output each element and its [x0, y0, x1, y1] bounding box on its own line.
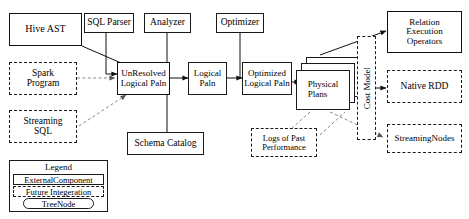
node-hive-ast[interactable]: Hive AST [9, 13, 82, 46]
node-unresolved-logical-plan[interactable]: UnResolved Logical Paln [117, 62, 170, 95]
node-logs-of-past-performance-label: Logs of Past Performance [262, 134, 305, 152]
node-streaming-nodes-label: StreamingNodes [395, 134, 455, 143]
node-analyzer[interactable]: Analyzer [144, 13, 191, 33]
node-schema-catalog-label: Schema Catalog [135, 139, 197, 149]
node-logs-of-past-performance[interactable]: Logs of Past Performance [251, 128, 317, 157]
node-spark-program-label: Spark Program [27, 69, 60, 89]
node-optimized-logical-plan-label: Optimized Logical Paln [244, 69, 290, 88]
legend-item-treenode: TreeNode [23, 198, 94, 209]
node-native-rdd-label: Native RDD [401, 82, 449, 92]
node-unresolved-logical-plan-label: UnResolved Logical Paln [121, 69, 167, 88]
node-sql-parser-label: SQL Parser [87, 18, 131, 28]
node-optimized-logical-plan[interactable]: Optimized Logical Paln [242, 62, 292, 95]
node-streaming-nodes[interactable]: StreamingNodes [387, 124, 462, 153]
legend-title: Legend [13, 162, 104, 173]
node-hive-ast-label: Hive AST [25, 24, 65, 35]
node-relation-execution-operators-label: Relation Execution Operators [406, 18, 443, 46]
legend: Legend ExternalComponent Future Integera… [9, 160, 108, 212]
node-logical-plan-label: Logical Paln [194, 69, 222, 88]
legend-item-future-integration-label: Future Integeration [26, 187, 91, 197]
node-sql-parser[interactable]: SQL Parser [84, 13, 134, 33]
node-schema-catalog[interactable]: Schema Catalog [127, 132, 204, 155]
node-relation-execution-operators[interactable]: Relation Execution Operators [387, 11, 462, 53]
node-optimizer[interactable]: Optimizer [216, 13, 264, 33]
node-optimizer-label: Optimizer [221, 18, 260, 28]
legend-item-external-component: ExternalComponent [13, 174, 104, 185]
node-streaming-sql-label: Streaming SQL [23, 117, 62, 137]
caption-fragment [2, 0, 152, 8]
legend-item-treenode-label: TreeNode [42, 199, 76, 209]
node-streaming-sql[interactable]: Streaming SQL [9, 110, 77, 143]
node-physical-plans-label: Physical Plans [308, 80, 339, 100]
node-physical-plans[interactable]: Physical Plans [296, 57, 360, 113]
physical-plans-sheet-front: Physical Plans [296, 70, 350, 110]
legend-item-external-component-label: ExternalComponent [24, 175, 92, 185]
node-cost-model-label: Cost Model [362, 67, 372, 109]
node-cost-model[interactable]: Cost Model [357, 36, 376, 140]
node-logical-plan[interactable]: Logical Paln [188, 62, 227, 95]
node-native-rdd[interactable]: Native RDD [387, 70, 462, 103]
node-analyzer-label: Analyzer [150, 18, 185, 28]
diagram-canvas: Hive AST SQL Parser Analyzer Optimizer S… [0, 0, 469, 219]
legend-item-future-integration: Future Integeration [13, 186, 104, 197]
node-spark-program[interactable]: Spark Program [9, 62, 77, 95]
